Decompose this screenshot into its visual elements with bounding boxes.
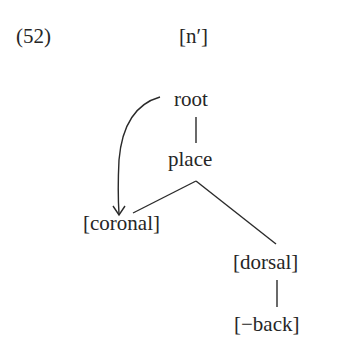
curved-arrow-root-coronal xyxy=(118,97,160,214)
node-root: root xyxy=(174,89,208,110)
edge-place-dorsal xyxy=(196,181,276,244)
node-back: [−back] xyxy=(234,314,299,335)
tree-edges xyxy=(0,0,340,352)
node-place: place xyxy=(168,149,212,170)
node-dorsal: [dorsal] xyxy=(233,252,298,273)
edge-place-coronal xyxy=(133,181,196,213)
node-coronal: [coronal] xyxy=(83,213,160,234)
